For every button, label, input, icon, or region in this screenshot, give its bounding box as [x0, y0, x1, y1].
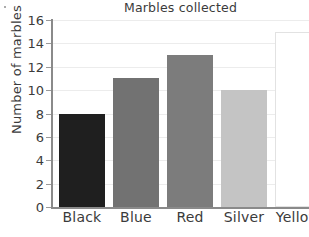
x-axis-label-silver: Silver	[217, 209, 271, 225]
y-axis-tick-label: 0	[10, 200, 44, 215]
x-axis-category-labels: BlackBlueRedSilverYellow	[51, 209, 309, 237]
y-axis-tick-label: 2	[10, 176, 44, 191]
x-axis-label-yellow: Yellow	[271, 209, 309, 225]
y-axis-tick-label: 6	[10, 129, 44, 144]
gridline	[53, 43, 309, 44]
y-axis-line	[51, 19, 53, 208]
bar-silver	[221, 90, 267, 207]
gridline	[53, 20, 309, 21]
y-axis-tick-label: 14	[10, 36, 44, 51]
x-axis-label-blue: Blue	[109, 209, 163, 225]
plot-area	[51, 20, 309, 207]
bar-red	[167, 55, 213, 207]
bar-blue	[113, 78, 159, 207]
chart-title: Marbles collected	[52, 0, 309, 15]
y-axis-tick-label: 8	[10, 106, 44, 121]
y-axis-tick-labels: 0246810121416	[10, 20, 44, 207]
bar-chart: Marbles collected Number of marbles 0246…	[0, 0, 309, 237]
bar-black	[59, 114, 105, 208]
y-axis-tick-label: 10	[10, 83, 44, 98]
y-axis-tick-label: 4	[10, 153, 44, 168]
y-axis-tick-label: 12	[10, 59, 44, 74]
y-axis-tick-label: 16	[10, 13, 44, 28]
image-speck	[4, 6, 6, 8]
x-axis-label-black: Black	[55, 209, 109, 225]
bar-yellow	[275, 32, 309, 207]
x-axis-label-red: Red	[163, 209, 217, 225]
